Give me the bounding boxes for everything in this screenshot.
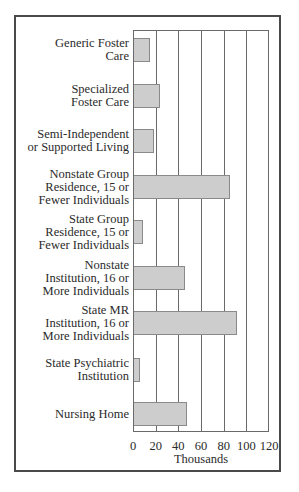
plot-area xyxy=(133,30,269,432)
gridline xyxy=(178,31,179,431)
x-tick-label: 120 xyxy=(260,439,279,454)
category-label: Semi-Independentor Supported Living xyxy=(4,128,129,154)
x-tick-label: 20 xyxy=(149,439,162,454)
category-label: NonstateInstitution, 16 orMore Individua… xyxy=(4,259,129,298)
category-label: SpecializedFoster Care xyxy=(4,83,129,109)
category-label: State MRInstitution, 16 orMore Individua… xyxy=(4,304,129,343)
bar xyxy=(134,84,160,108)
x-axis-label: Thousands xyxy=(174,452,228,467)
bar xyxy=(134,220,143,244)
category-label: State PsychiatricInstitution xyxy=(4,357,129,383)
category-label: Nursing Home xyxy=(4,408,129,421)
x-tick-label: 0 xyxy=(130,439,136,454)
gridline xyxy=(201,31,202,431)
gridline xyxy=(224,31,225,431)
bar xyxy=(134,175,230,199)
bar xyxy=(134,129,154,153)
bar xyxy=(134,358,140,382)
category-label: State GroupResidence, 15 orFewer Individ… xyxy=(4,213,129,252)
category-label: Nonstate GroupResidence, 15 orFewer Indi… xyxy=(4,168,129,207)
category-label: Generic FosterCare xyxy=(4,37,129,63)
x-tick-label: 100 xyxy=(237,439,256,454)
bar xyxy=(134,402,187,426)
bar xyxy=(134,266,185,290)
gridline xyxy=(246,31,247,431)
bar xyxy=(134,38,150,62)
bar xyxy=(134,311,237,335)
